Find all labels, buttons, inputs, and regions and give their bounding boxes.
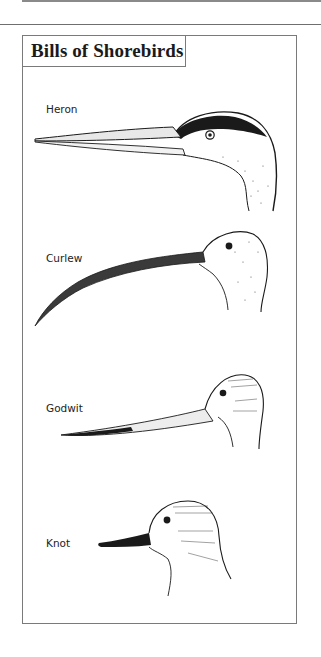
bird-curlew: Curlew	[23, 222, 298, 352]
top-edge-line	[22, 0, 321, 2]
page-rule	[0, 24, 321, 25]
shorebird-bills-figure: Bills of Shorebirds Heron Curl	[22, 35, 297, 624]
heron-head-illustration	[23, 91, 298, 221]
curlew-head-illustration	[23, 222, 298, 352]
figure-title: Bills of Shorebirds	[31, 40, 184, 62]
knot-head-illustration	[23, 491, 298, 611]
bird-heron: Heron	[23, 91, 298, 221]
godwit-head-illustration	[23, 361, 298, 471]
bird-knot: Knot	[23, 491, 298, 611]
bird-godwit: Godwit	[23, 361, 298, 471]
figure-title-box: Bills of Shorebirds	[23, 36, 186, 67]
